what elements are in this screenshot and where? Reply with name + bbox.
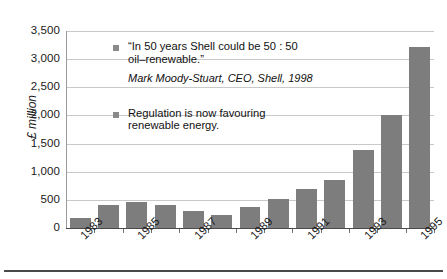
bar-1993 <box>353 150 374 228</box>
y-axis-title: £ million <box>25 72 39 162</box>
annotation-quote: “In 50 years Shell could be 50 : 50 oil–… <box>113 40 363 85</box>
x-axis-tick <box>406 229 407 233</box>
x-axis-tick <box>179 229 180 233</box>
annotation-group: “In 50 years Shell could be 50 : 50 oil–… <box>113 40 363 134</box>
bullet-square-icon <box>113 45 119 51</box>
bottom-divider <box>4 270 443 272</box>
x-axis-tick <box>349 229 350 233</box>
bullet-square-icon <box>113 112 119 118</box>
bar-1994 <box>381 115 402 228</box>
annotation-statement-line1: Regulation is now favouring <box>128 107 265 119</box>
annotation-statement: Regulation is now favouring renewable en… <box>113 107 363 132</box>
x-axis-tick <box>123 229 124 233</box>
annotation-quote-text: “In 50 years Shell could be 50 : 50 oil–… <box>128 40 363 65</box>
annotation-statement-line2: renewable energy. <box>128 119 219 131</box>
close-quote-glyph: ” <box>200 53 204 65</box>
x-axis-tick <box>236 229 237 233</box>
y-axis-tick-label: 500 <box>0 193 60 205</box>
annotation-statement-text: Regulation is now favouring renewable en… <box>128 107 363 132</box>
annotation-quote-line2: oil–renewable. <box>128 53 200 65</box>
y-axis-tick-label: 1,000 <box>0 165 60 177</box>
bar-1995 <box>409 47 430 228</box>
x-axis-tick <box>292 229 293 233</box>
bar-chart-figure: 05001,0001,5002,0002,5003,0003,500 £ mil… <box>0 0 447 279</box>
y-axis-tick-label: 3,500 <box>0 24 60 36</box>
y-axis-tick-label: 0 <box>0 221 60 233</box>
annotation-quote-line1: In 50 years Shell could be 50 : 50 <box>132 40 298 52</box>
y-axis-tick-label: 3,000 <box>0 52 60 64</box>
annotation-attribution: Mark Moody-Stuart, CEO, Shell, 1998 <box>128 72 363 85</box>
